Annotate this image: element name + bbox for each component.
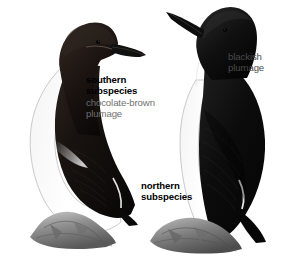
northern-bird-eye bbox=[223, 28, 227, 32]
label-northern-subspecies: northern subspecies bbox=[141, 181, 192, 202]
label-blackish-plumage: blackish plumage bbox=[228, 52, 264, 73]
southern-bird-eye bbox=[96, 40, 100, 44]
northern-bird-eye-highlight bbox=[224, 29, 225, 30]
illustration-canvas bbox=[0, 0, 299, 274]
label-chocolate-brown-plumage: chocolate-brown plumage bbox=[86, 98, 155, 119]
southern-bird-eye-highlight bbox=[98, 41, 99, 42]
label-southern-subspecies: southern subspecies bbox=[86, 75, 137, 96]
bird-illustration-figure: southern subspecies chocolate-brown plum… bbox=[0, 0, 299, 274]
